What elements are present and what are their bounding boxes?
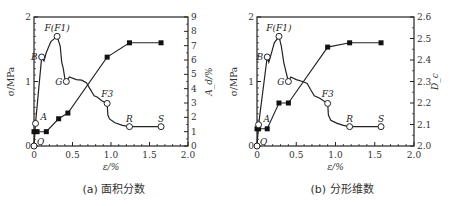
y2-tick-label: 2.0 (417, 141, 432, 151)
point-label: B (30, 52, 38, 62)
y2-axis-label: A_d/% (204, 67, 215, 96)
y2-tick-label: 9 (191, 12, 197, 22)
point-label: R (125, 114, 133, 124)
point-label: S (158, 114, 164, 124)
right-series-line (34, 43, 161, 132)
x-axis-label: ε/% (327, 162, 343, 172)
point-label: B (256, 52, 264, 62)
y-axis-label: σ/MPa (229, 66, 239, 96)
x-tick-label: 1.0 (328, 150, 343, 160)
circle-marker (378, 124, 384, 130)
square-marker (65, 111, 70, 116)
point-label: O (260, 137, 268, 147)
y2-tick-label: 2.5 (417, 34, 432, 44)
y-tick-label: 0 (248, 141, 254, 151)
x-tick-label: 0 (31, 150, 37, 160)
circle-marker (33, 120, 39, 126)
circle-marker (325, 100, 331, 106)
x-tick-label: 1.5 (142, 150, 157, 160)
point-label: O (37, 137, 45, 147)
point-label: G (277, 77, 284, 87)
circle-marker (347, 124, 353, 130)
circle-marker (256, 122, 262, 128)
y-tick-label: 2 (248, 12, 254, 22)
square-marker (276, 101, 281, 106)
point-label: F3 (321, 89, 334, 99)
x-tick-label: 2.0 (181, 150, 196, 160)
square-marker (56, 116, 61, 121)
x-tick-label: 0.5 (65, 150, 80, 160)
y-tick-label: 0 (25, 141, 31, 151)
circle-marker (264, 54, 270, 60)
square-marker (159, 40, 164, 45)
circle-marker (158, 124, 164, 130)
y2-tick-label: 6 (191, 55, 197, 65)
y-tick-label: 1 (248, 77, 254, 87)
point-label: A (40, 112, 48, 122)
square-marker (105, 55, 110, 60)
point-label: F3 (100, 89, 113, 99)
x-tick-label: 2.0 (407, 150, 422, 160)
x-axis-label: ε/% (103, 162, 119, 172)
stress-strain-curve (34, 36, 161, 146)
y2-tick-label: 1 (191, 127, 197, 137)
y2-tick-label: 7 (191, 41, 197, 51)
circle-marker (54, 33, 60, 39)
y-tick-label: 1 (25, 77, 31, 87)
y2-tick-label: 2.6 (417, 12, 432, 22)
y2-axis-label: D_c (430, 73, 441, 91)
stress-strain-curve (257, 36, 381, 146)
x-tick-label: 1.0 (104, 150, 119, 160)
square-marker (44, 129, 49, 134)
x-tick-label: 0.5 (289, 150, 304, 160)
square-marker (265, 126, 270, 131)
y2-tick-label: 8 (191, 26, 197, 36)
circle-marker (285, 79, 291, 85)
point-label: G (55, 77, 62, 87)
point-label: R (345, 114, 353, 124)
circle-marker (63, 79, 69, 85)
point-label: A (263, 114, 271, 124)
y2-tick-label: 4 (191, 84, 197, 94)
square-marker (35, 129, 40, 134)
point-label: S (378, 114, 384, 124)
y-axis-label: σ/MPa (6, 66, 16, 96)
chart-b-caption: (b) 分形维数 (228, 180, 456, 196)
chart-a-plot: 00.51.01.52.00120123456789ε/%σ/MPaA_d/%O… (0, 0, 228, 206)
square-marker (127, 40, 132, 45)
chart-panel-b: 00.51.01.52.00122.02.12.22.32.42.52.6ε/%… (228, 0, 456, 206)
point-label: F(F1) (43, 23, 70, 33)
square-marker (286, 101, 291, 106)
circle-marker (276, 33, 282, 39)
right-series-line (257, 43, 381, 129)
chart-a-caption: (a) 面积分数 (0, 180, 228, 196)
circle-marker (126, 124, 132, 130)
y2-tick-label: 2.1 (417, 120, 431, 130)
circle-marker (104, 100, 110, 106)
chart-panel-a: 00.51.01.52.00120123456789ε/%σ/MPaA_d/%O… (0, 0, 228, 206)
point-label: F(F1) (265, 23, 292, 33)
x-tick-label: 0 (254, 150, 260, 160)
x-tick-label: 1.5 (368, 150, 383, 160)
y2-tick-label: 3 (191, 98, 197, 108)
y2-tick-label: 5 (191, 69, 197, 79)
chart-b-plot: 00.51.01.52.00122.02.12.22.32.42.52.6ε/%… (228, 0, 456, 206)
square-marker (347, 40, 352, 45)
square-marker (325, 45, 330, 50)
y-tick-label: 2 (25, 12, 31, 22)
y2-tick-label: 0 (191, 141, 197, 151)
y2-tick-label: 2 (191, 112, 197, 122)
square-marker (379, 40, 384, 45)
y2-tick-label: 2.4 (417, 55, 432, 65)
circle-marker (39, 54, 45, 60)
y2-tick-label: 2.2 (417, 98, 431, 108)
